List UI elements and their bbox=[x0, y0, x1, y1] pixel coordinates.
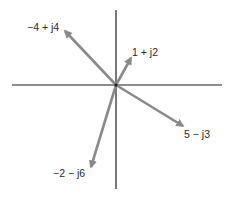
phasor-arrow-5-minus-j3 bbox=[116, 85, 183, 126]
phasor-arrow-neg4-plus-j4 bbox=[65, 31, 116, 85]
phasor-label-1-plus-j2: 1 + j2 bbox=[132, 46, 158, 58]
origin-point bbox=[114, 83, 117, 86]
phasor-label-neg4-plus-j4: −4 + j4 bbox=[27, 21, 59, 33]
phasor-label-5-minus-j3: 5 − j3 bbox=[184, 128, 210, 140]
phasor-arrow-neg2-minus-j6 bbox=[91, 85, 116, 167]
phasor-arrow-1-plus-j2 bbox=[116, 58, 131, 85]
phasor-label-neg2-minus-j6: −2 − j6 bbox=[53, 167, 85, 179]
